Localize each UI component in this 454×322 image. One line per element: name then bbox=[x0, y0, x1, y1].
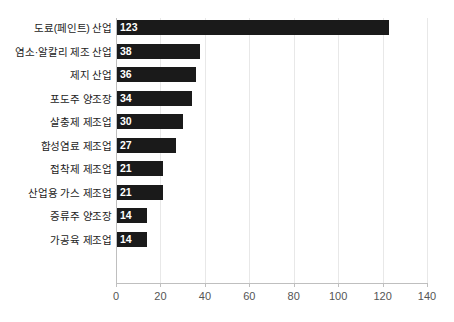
bar[interactable]: 14 bbox=[116, 232, 147, 247]
x-tick-label: 120 bbox=[363, 290, 403, 302]
x-tick-mark bbox=[294, 283, 295, 287]
category-label: 산업용 가스 제조업 bbox=[0, 187, 112, 199]
category-label: 포도주 양조장 bbox=[0, 93, 112, 105]
bar[interactable]: 34 bbox=[116, 91, 192, 106]
category-label: 제지 산업 bbox=[0, 69, 112, 81]
x-tick-mark bbox=[205, 283, 206, 287]
gridline bbox=[294, 18, 295, 283]
bar-value-label: 34 bbox=[120, 91, 132, 106]
x-tick-mark bbox=[338, 283, 339, 287]
x-tick-label: 140 bbox=[407, 290, 447, 302]
gridline bbox=[249, 18, 250, 283]
bar-value-label: 30 bbox=[120, 114, 132, 129]
category-axis-labels: 도료(페인트) 산업 염소·알칼리 제조 산업 제지 산업 포도주 양조장 살충… bbox=[0, 18, 112, 283]
bar[interactable]: 27 bbox=[116, 138, 176, 153]
y-axis-line bbox=[116, 18, 117, 283]
bar[interactable]: 21 bbox=[116, 161, 163, 176]
bar-value-label: 36 bbox=[120, 67, 132, 82]
bar[interactable]: 30 bbox=[116, 114, 183, 129]
category-label: 살충제 제조업 bbox=[0, 116, 112, 128]
gridline bbox=[205, 18, 206, 283]
bar-value-label: 14 bbox=[120, 232, 132, 247]
x-tick-mark bbox=[427, 283, 428, 287]
bar-value-label: 27 bbox=[120, 138, 132, 153]
x-tick-label: 80 bbox=[274, 290, 314, 302]
bar-value-label: 123 bbox=[120, 20, 138, 35]
category-label: 염소·알칼리 제조 산업 bbox=[0, 46, 112, 58]
category-label: 합성염료 제조업 bbox=[0, 140, 112, 152]
category-label: 증류주 양조장 bbox=[0, 210, 112, 222]
gridline bbox=[383, 18, 384, 283]
x-axis-line bbox=[116, 283, 428, 284]
bar[interactable]: 38 bbox=[116, 44, 200, 59]
bar-value-label: 21 bbox=[120, 161, 132, 176]
bar-value-label: 21 bbox=[120, 185, 132, 200]
x-tick-label: 20 bbox=[140, 290, 180, 302]
x-tick-label: 40 bbox=[185, 290, 225, 302]
category-label: 도료(페인트) 산업 bbox=[0, 22, 112, 34]
bar[interactable]: 21 bbox=[116, 185, 163, 200]
bar-chart: 도료(페인트) 산업 염소·알칼리 제조 산업 제지 산업 포도주 양조장 살충… bbox=[0, 0, 454, 322]
bar-value-label: 14 bbox=[120, 208, 132, 223]
category-label: 접착제 제조업 bbox=[0, 163, 112, 175]
x-tick-label: 100 bbox=[318, 290, 358, 302]
plot-area: 123 38 36 34 30 27 21 21 14 14 bbox=[116, 18, 427, 283]
x-tick-label: 60 bbox=[229, 290, 269, 302]
x-tick-label: 0 bbox=[96, 290, 136, 302]
bar[interactable]: 14 bbox=[116, 208, 147, 223]
category-label: 가공육 제조업 bbox=[0, 234, 112, 246]
x-tick-mark bbox=[116, 283, 117, 287]
gridline bbox=[427, 18, 428, 283]
bar-value-label: 38 bbox=[120, 44, 132, 59]
x-tick-mark bbox=[383, 283, 384, 287]
x-tick-mark bbox=[160, 283, 161, 287]
x-tick-mark bbox=[249, 283, 250, 287]
bar[interactable]: 36 bbox=[116, 67, 196, 82]
gridline bbox=[338, 18, 339, 283]
bar[interactable]: 123 bbox=[116, 20, 389, 35]
